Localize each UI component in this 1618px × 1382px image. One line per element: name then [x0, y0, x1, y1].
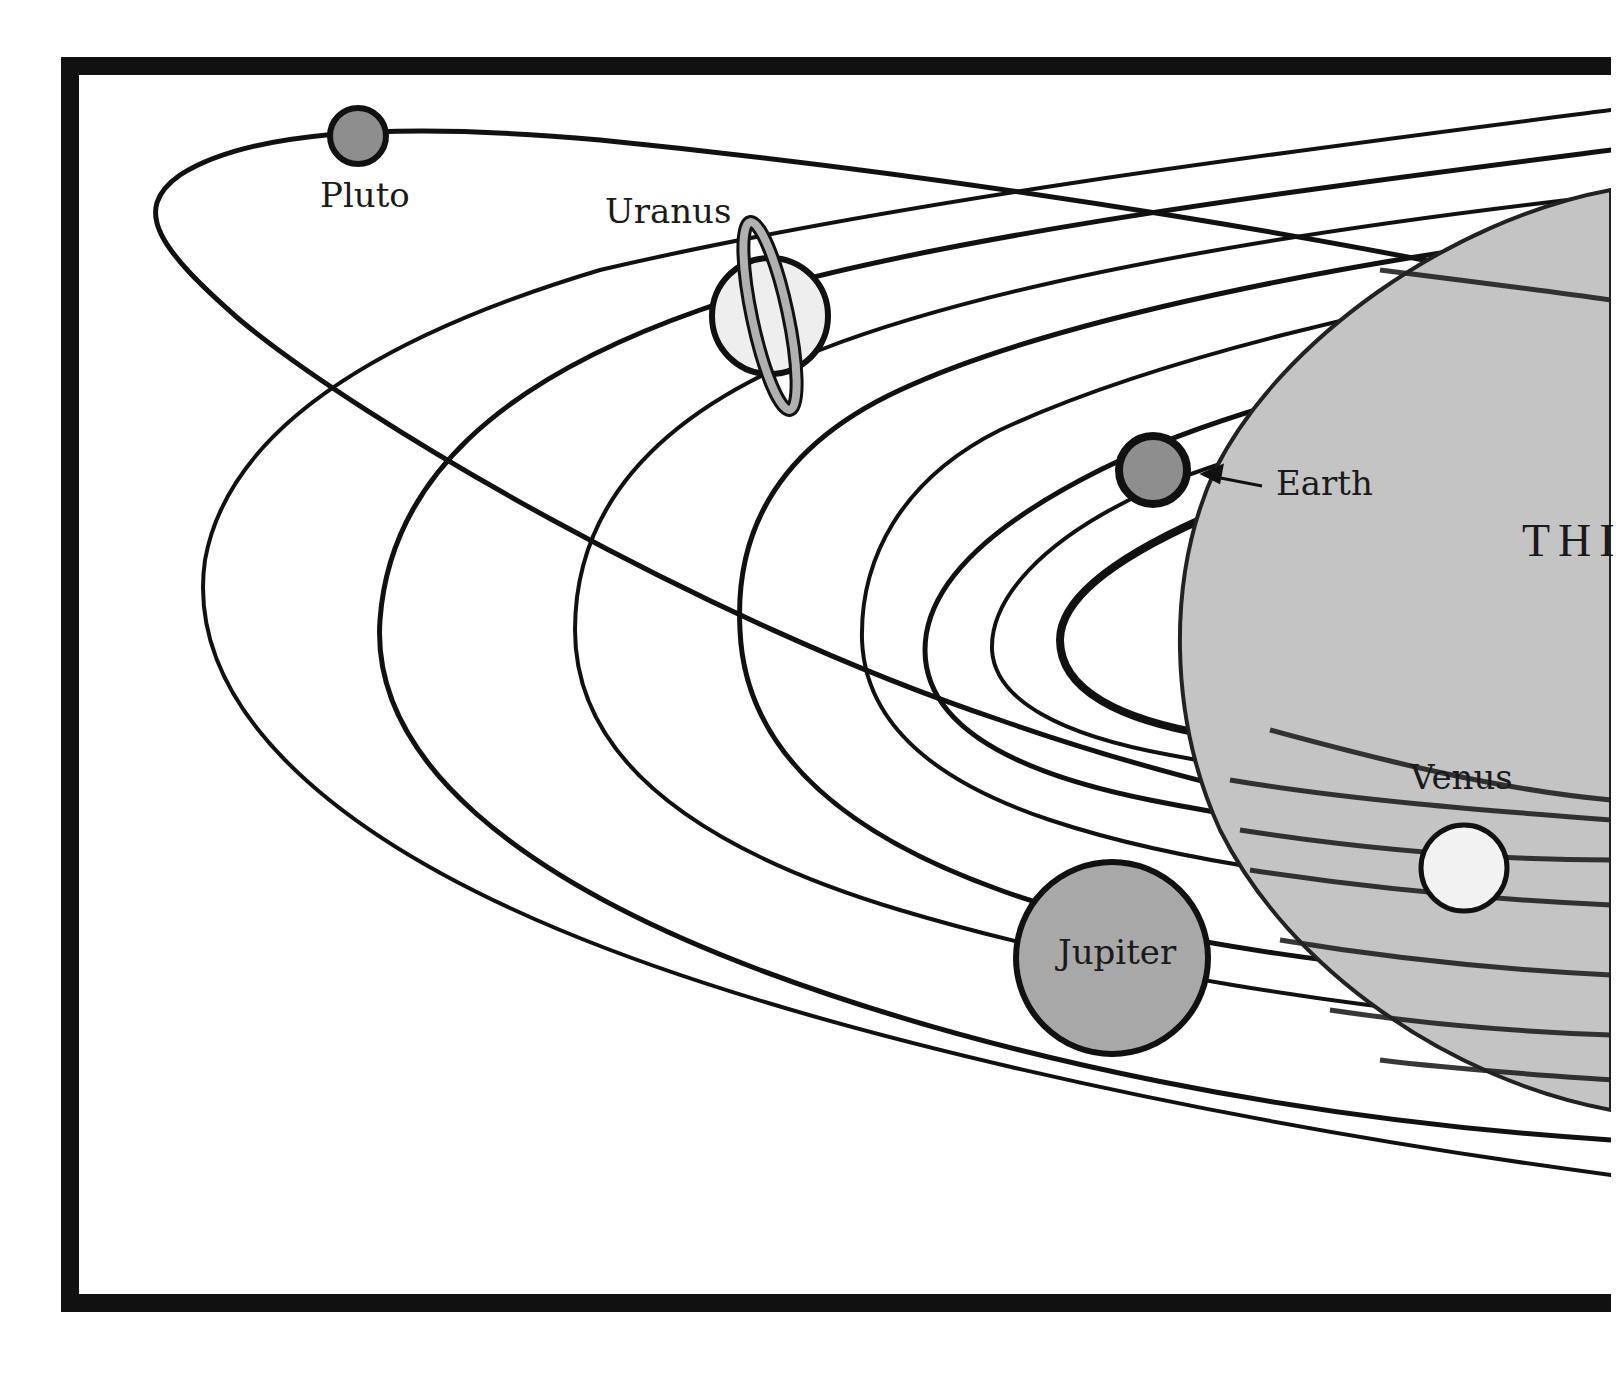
planet-pluto — [330, 108, 386, 164]
planet-venus — [1421, 825, 1507, 911]
label-venus: Venus — [1410, 760, 1513, 794]
label-uranus: Uranus — [605, 194, 731, 228]
planet-uranus — [712, 218, 828, 413]
planet-earth — [1119, 436, 1187, 504]
label-jupiter: Jupiter — [1058, 935, 1176, 969]
label-earth: Earth — [1276, 466, 1373, 500]
title-fragment: THI — [1522, 518, 1618, 564]
label-pluto: Pluto — [320, 178, 410, 212]
